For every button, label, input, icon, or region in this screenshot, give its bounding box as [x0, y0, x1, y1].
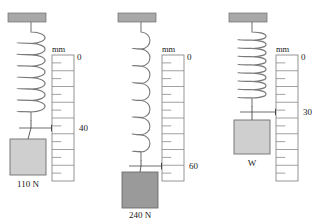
spring-scale-diagram: 110 Nmm040240 Nmm060Wmm030 — [0, 0, 317, 224]
block-hanger-line — [140, 166, 141, 172]
setup-3: Wmm030 — [229, 13, 313, 181]
ceiling-bracket — [229, 13, 267, 22]
scale-zero-label: 0 — [187, 52, 192, 62]
ceiling-bracket — [8, 13, 46, 22]
scale-reading-label: 60 — [189, 161, 199, 171]
scale-zero-label: 0 — [77, 52, 82, 62]
spring-coil — [238, 22, 266, 106]
block-weight-label: 240 N — [129, 210, 152, 220]
scale-unit-label: mm — [162, 44, 176, 54]
block-weight-label: 110 N — [17, 179, 39, 189]
hanging-block — [234, 120, 270, 154]
scale-reading-label: 40 — [79, 123, 89, 133]
scale-unit-label: mm — [52, 44, 66, 54]
ceiling-bracket — [118, 13, 156, 22]
spring-coil — [17, 22, 45, 120]
scale-zero-label: 0 — [301, 52, 306, 62]
setup-1: 110 Nmm040 — [8, 13, 89, 189]
setup-2: 240 Nmm060 — [118, 13, 199, 220]
block-weight-label: W — [248, 158, 257, 168]
scale-reading-label: 30 — [303, 107, 313, 117]
spring-coil — [132, 22, 150, 160]
hanging-block — [10, 139, 46, 175]
block-hanger-line — [28, 128, 31, 139]
hanging-block — [122, 172, 158, 208]
scale-unit-label: mm — [276, 44, 290, 54]
